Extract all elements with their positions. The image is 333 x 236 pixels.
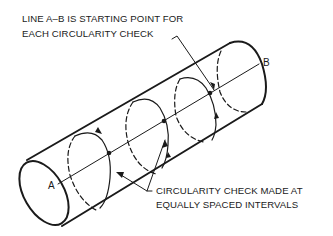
cylinder-right-end (230, 42, 266, 104)
bottom-callout-line2: EQUALLY SPACED INTERVALS (156, 199, 298, 210)
check-circle-4 (217, 51, 246, 112)
check-circle-1 (68, 133, 110, 210)
top-callout-line2: EACH CIRCULARITY CHECK (22, 28, 154, 39)
check-circle-2 (126, 99, 168, 174)
check-circle-3 (175, 78, 216, 142)
point-b-label: B (263, 57, 270, 68)
cylinder-diagram: LINE A–B IS STARTING POINT FOR EACH CIRC… (0, 0, 333, 236)
top-callout-line1: LINE A–B IS STARTING POINT FOR (22, 13, 183, 24)
point-a-label: A (48, 180, 55, 191)
bottom-callout-line1: CIRCULARITY CHECK MADE AT (156, 185, 303, 196)
